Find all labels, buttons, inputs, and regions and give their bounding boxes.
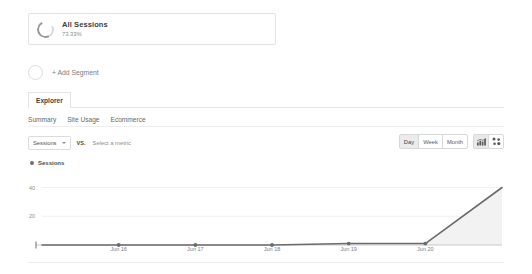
y-axis-tick-40: 40 [29, 185, 35, 191]
bar-chart-icon-button[interactable] [473, 134, 489, 149]
sub-tab-bar: Summary Site Usage Ecommerce [28, 112, 504, 127]
bar-chart-icon [477, 138, 486, 146]
segment-card[interactable]: All Sessions 73.33% [28, 13, 276, 45]
chart-type-button-group [474, 134, 504, 149]
tab-explorer[interactable]: Explorer [28, 92, 71, 108]
chart-legend: Sessions [30, 160, 64, 166]
x-axis-tick-label: Jun 18 [264, 246, 281, 252]
primary-metric-dropdown[interactable]: Sessions [28, 136, 71, 150]
tab-ecommerce[interactable]: Ecommerce [110, 116, 145, 123]
granularity-week-button[interactable]: Week [418, 134, 443, 149]
donut-progress-icon [35, 18, 56, 39]
granularity-button-group: Day Week Month [399, 134, 468, 149]
x-axis-tick-label: Jun 17 [187, 246, 204, 252]
x-axis-tick-label: Jun 19 [340, 246, 357, 252]
empty-circle-icon [28, 65, 43, 80]
segment-title: All Sessions [62, 21, 108, 30]
segment-card-text: All Sessions 73.33% [62, 21, 108, 38]
scatter-plot-icon [492, 137, 501, 146]
vs-label: VS. [77, 140, 86, 146]
primary-tab-bar: Explorer [28, 92, 504, 108]
chevron-down-icon [62, 142, 66, 144]
granularity-month-button[interactable]: Month [442, 134, 468, 149]
y-axis-tick-20: 20 [29, 213, 35, 219]
primary-metric-label: Sessions [33, 140, 57, 146]
x-axis-tick-label: Jun 20 [417, 246, 434, 252]
analytics-report-page: All Sessions 73.33% + Add Segment Explor… [0, 0, 532, 274]
tab-site-usage[interactable]: Site Usage [67, 116, 99, 123]
x-axis-tick-label: Jun 16 [110, 246, 127, 252]
add-segment-label: + Add Segment [52, 69, 99, 76]
bottom-divider [28, 262, 504, 263]
tab-summary[interactable]: Summary [28, 116, 56, 123]
scatter-plot-icon-button[interactable] [488, 134, 504, 149]
legend-dot-icon [30, 161, 34, 165]
legend-series-label: Sessions [38, 160, 64, 166]
x-axis-tick-labels: Jun 16Jun 17Jun 18Jun 19Jun 20 [0, 246, 532, 258]
granularity-day-button[interactable]: Day [399, 134, 419, 149]
segment-percent: 73.33% [62, 31, 108, 38]
add-segment-button[interactable]: + Add Segment [28, 60, 99, 84]
secondary-metric-dropdown[interactable]: Select a metric [93, 140, 131, 146]
chart-controls: Day Week Month [399, 134, 504, 149]
